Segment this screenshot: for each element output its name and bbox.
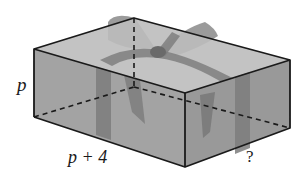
- length-label: p + 4: [68, 148, 107, 166]
- gift-box-diagram: p p + 4 ?: [0, 0, 303, 186]
- box-drawing: [0, 0, 303, 186]
- height-label: p: [17, 75, 27, 94]
- width-label: ?: [246, 148, 254, 165]
